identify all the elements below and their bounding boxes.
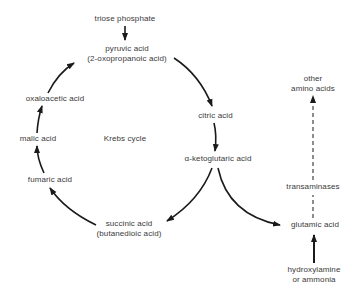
arrow-oxaloacetic-to-pyruvic [48, 63, 74, 93]
node-glutamic-acid: glutamic acid [285, 220, 345, 230]
node-succinic-acid: succinic acid (butanedioic acid) [90, 219, 168, 239]
pyruvic-acid-iupac: (2-oxopropanoic acid) [80, 54, 174, 64]
arrow-pyruvic-to-citric [174, 58, 212, 106]
cycle-title-krebs: Krebs cycle [100, 134, 150, 144]
node-triose-phosphate: triose phosphate [90, 14, 160, 24]
node-other-amino-acids: other amino acids [285, 74, 341, 94]
arrow-malic-to-oxaloacetic [37, 106, 42, 133]
other-amino-acids-line1: other [285, 74, 341, 84]
arrow-ketoglutaric-to-glutamic [218, 168, 280, 225]
node-malic-acid: malic acid [16, 134, 60, 144]
succinic-acid-name: succinic acid [90, 219, 168, 229]
arrows-layer [0, 0, 363, 303]
succinic-acid-iupac: (butanedioic acid) [90, 229, 168, 239]
node-hydroxylamine-or-ammonia: hydroxylamine or ammonia [283, 265, 345, 285]
hydroxylamine-line1: hydroxylamine [283, 265, 345, 275]
krebs-cycle-diagram: triose phosphate pyruvic acid (2-oxoprop… [0, 0, 363, 303]
pyruvic-acid-name: pyruvic acid [80, 44, 174, 54]
node-fumaric-acid: fumaric acid [22, 175, 78, 185]
node-pyruvic-acid: pyruvic acid (2-oxopropanoic acid) [80, 44, 174, 64]
other-amino-acids-line2: amino acids [285, 84, 341, 94]
node-oxaloacetic-acid: oxaloacetic acid [20, 94, 90, 104]
arrow-ketoglutaric-to-succinic [167, 168, 212, 221]
hydroxylamine-line2: or ammonia [283, 275, 345, 285]
label-transaminases: transaminases [283, 182, 343, 192]
node-alpha-ketoglutaric-acid: α-ketoglutaric acid [168, 154, 268, 164]
arrow-fumaric-to-malic [37, 146, 44, 173]
node-citric-acid: citric acid [193, 111, 238, 121]
arrow-citric-to-ketoglutaric [214, 123, 216, 151]
